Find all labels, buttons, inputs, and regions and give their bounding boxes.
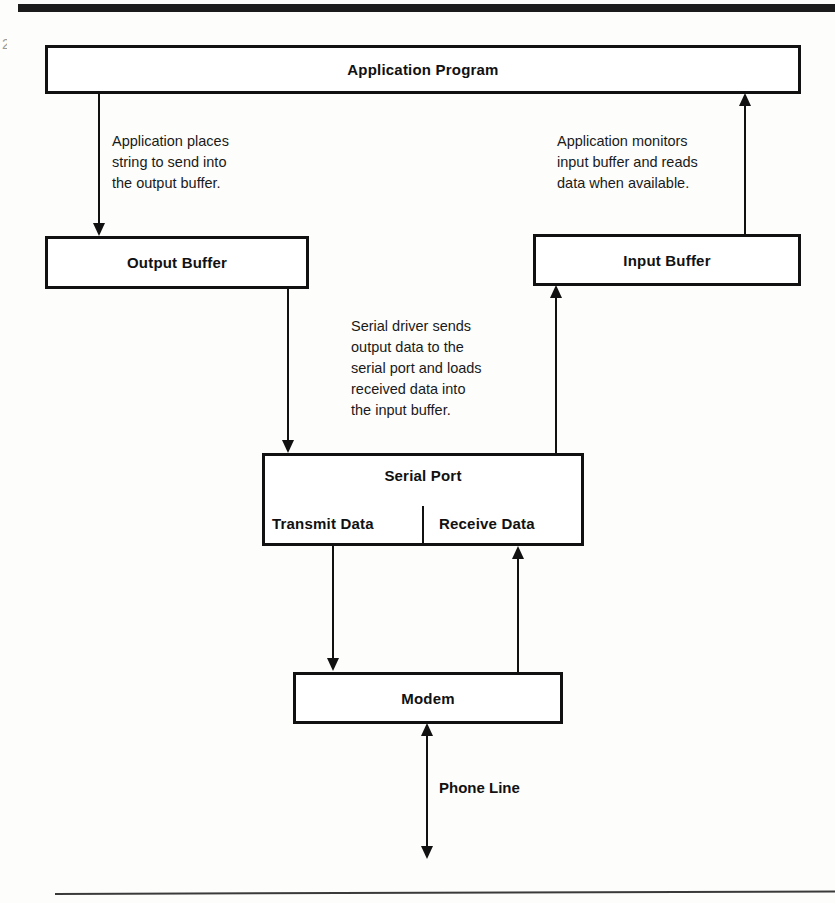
diagram-page: 2 Application Program Application places… bbox=[0, 0, 835, 903]
connector-transmit-data-to-modem-line bbox=[332, 546, 334, 659]
box-serial-port-label: Serial Port bbox=[265, 467, 581, 484]
connector-application-to-output-buffer-line bbox=[98, 93, 100, 224]
serial-port-transmit-data-label: Transmit Data bbox=[272, 515, 374, 532]
connector-modem-to-receive-data-line bbox=[517, 558, 519, 672]
box-modem: Modem bbox=[293, 672, 563, 724]
box-output-buffer: Output Buffer bbox=[45, 236, 309, 289]
connector-phone-line-arrowhead-up bbox=[421, 723, 433, 736]
connector-output-buffer-to-serial-port-arrowhead bbox=[282, 440, 294, 453]
connector-phone-line-arrowhead-down bbox=[421, 846, 433, 859]
box-input-buffer-label: Input Buffer bbox=[623, 252, 710, 269]
serial-port-divider bbox=[422, 506, 424, 546]
box-output-buffer-label: Output Buffer bbox=[127, 254, 227, 271]
page-margin-mark: 2 bbox=[2, 36, 7, 52]
box-serial-port: Serial Port Transmit Data Receive Data bbox=[262, 453, 584, 546]
box-application-program: Application Program bbox=[45, 45, 801, 94]
box-application-program-label: Application Program bbox=[347, 61, 498, 78]
connector-application-to-output-buffer-arrowhead bbox=[93, 223, 105, 236]
connector-output-buffer-to-serial-port-line bbox=[287, 289, 289, 441]
box-input-buffer: Input Buffer bbox=[533, 234, 801, 286]
connector-input-buffer-to-application-arrowhead bbox=[739, 93, 751, 106]
box-modem-label: Modem bbox=[401, 690, 455, 707]
connector-modem-to-receive-data-arrowhead bbox=[512, 546, 524, 559]
note-serial-driver: Serial driver sends output data to the s… bbox=[351, 316, 571, 421]
serial-port-receive-data-label: Receive Data bbox=[439, 515, 535, 532]
page-top-rule bbox=[18, 4, 835, 12]
connector-phone-line-line bbox=[426, 735, 428, 847]
connector-serial-port-to-input-buffer-arrowhead bbox=[550, 285, 562, 298]
note-input-path: Application monitors input buffer and re… bbox=[557, 131, 797, 194]
label-phone-line: Phone Line bbox=[439, 779, 520, 796]
connector-transmit-data-to-modem-arrowhead bbox=[327, 658, 339, 671]
note-output-path: Application places string to send into t… bbox=[112, 131, 332, 194]
page-bottom-rule bbox=[55, 891, 835, 895]
